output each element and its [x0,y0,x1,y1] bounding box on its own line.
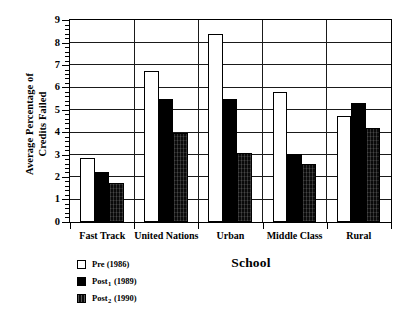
bar-group [198,20,262,222]
y-tick-label: 4 [55,127,60,138]
bar [95,172,110,222]
bar-group [262,20,326,222]
bar-group-bars [326,20,390,222]
bar [287,154,302,222]
x-category-label: United Nations [134,229,198,243]
x-axis-category-labels: Fast TrackUnited NationsUrbanMiddle Clas… [69,229,392,245]
bar [223,99,238,222]
y-tick-major [62,43,69,44]
bar-group [70,20,134,222]
y-axis: 0123456789 [40,19,69,223]
legend-item: Post2 (1990) [77,290,192,306]
plot-area [69,19,392,223]
legend-label: Pre (1986) [92,260,129,269]
bar [273,92,288,222]
bar [109,183,124,222]
y-tick-major [62,132,69,133]
bar-group-bars [70,20,134,222]
y-tick-major [62,87,69,88]
bar [302,164,317,222]
y-tick-label: 1 [55,194,60,205]
bar [144,71,159,222]
x-category-label: Middle Class [267,229,323,243]
y-tick-major [62,65,69,66]
bar [351,103,366,222]
y-tick-major [62,199,69,200]
bar-chart-figure: Average Percentage of Credits Failed 012… [0,0,419,318]
y-tick-label: 0 [55,216,60,227]
legend-swatch [77,260,86,269]
y-tick-major [62,155,69,156]
bar-group-bars [198,20,262,222]
y-tick-label: 6 [55,82,60,93]
bar [366,128,381,222]
bar [159,99,174,222]
y-tick-label: 9 [55,15,60,26]
y-tick-label: 8 [55,37,60,48]
y-tick-label: 7 [55,60,60,71]
plot-inner [70,20,391,222]
bar [337,116,352,222]
legend: Pre (1986)Post1 (1989)Post2 (1990) [77,256,192,307]
bar [208,34,223,222]
x-category-label: Fast Track [79,229,125,243]
bar [80,158,95,222]
legend-swatch [77,294,86,303]
legend-item: Pre (1986) [77,256,192,272]
bar [237,153,252,222]
x-category-label: Urban [217,229,245,243]
y-tick-major [62,177,69,178]
x-category-label: Rural [346,229,371,243]
y-tick-label: 3 [55,149,60,160]
y-tick-major [62,110,69,111]
bar-group-bars [262,20,326,222]
bar-group [326,20,390,222]
legend-label: Post1 (1989) [92,277,137,286]
x-axis-title: School [196,255,306,271]
y-tick-major [62,222,69,223]
legend-swatch [77,277,86,286]
y-tick-label: 5 [55,105,60,116]
bar [173,133,188,223]
bar-group-bars [134,20,198,222]
y-tick-major [62,20,69,21]
y-tick-label: 2 [55,172,60,183]
bar-group [134,20,198,222]
legend-item: Post1 (1989) [77,273,192,289]
legend-label: Post2 (1990) [92,294,137,303]
y-axis-title-line1: Average Percentage of [24,73,35,175]
